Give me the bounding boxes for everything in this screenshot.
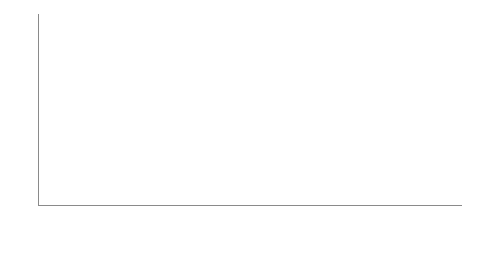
x-axis-line [38, 205, 462, 206]
plot-area [38, 14, 462, 205]
scatter-chart [0, 0, 495, 261]
y-axis-line [38, 14, 39, 206]
